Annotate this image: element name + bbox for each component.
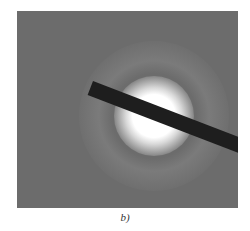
- figure-caption: b): [0, 211, 250, 223]
- diffraction-image: [17, 11, 238, 208]
